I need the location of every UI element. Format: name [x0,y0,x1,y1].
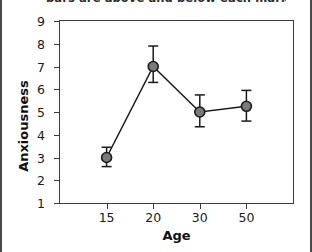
plot-area: 123456789 15203050 [59,20,294,204]
y-tick-label: 5 [37,107,45,120]
data-point-marker [102,153,112,163]
y-tick-label: 9 [37,16,45,29]
data-point-marker [195,107,205,117]
series-line [107,67,247,158]
data-point-marker [241,101,251,111]
x-tick-label: 15 [99,212,115,225]
x-tick-label: 30 [192,212,208,225]
x-tick [200,203,201,209]
chart-figure: bars are above and below each marker Anx… [0,0,312,252]
y-tick: 1 [54,203,60,204]
y-tick-label: 2 [37,175,45,188]
y-tick-label: 8 [37,39,45,52]
y-tick-label: 6 [37,84,45,97]
x-tick [107,203,108,209]
x-tick-label: 50 [238,212,254,225]
y-tick-label: 4 [37,130,45,143]
x-tick [246,203,247,209]
x-tick [153,203,154,209]
y-tick-label: 1 [37,198,45,211]
data-point-marker [148,62,158,72]
x-tick-label: 20 [145,212,161,225]
y-axis-title: Anxiousness [8,0,38,252]
y-tick-label: 7 [37,61,45,74]
chart-caption: bars are above and below each marker [46,0,286,5]
x-axis-title: Age [59,228,294,243]
y-tick-label: 3 [37,152,45,165]
data-series-anxiousness [60,21,293,203]
